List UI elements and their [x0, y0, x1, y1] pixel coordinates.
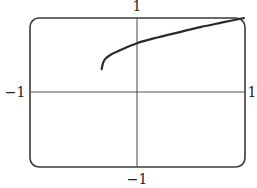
function-curve: [102, 18, 244, 69]
x-right-label: 1: [248, 84, 257, 100]
x-left-label: −1: [5, 84, 26, 100]
y-bottom-label: −1: [127, 171, 148, 187]
graph: 1 −1 −1 1: [0, 0, 257, 188]
y-top-label: 1: [133, 0, 142, 14]
